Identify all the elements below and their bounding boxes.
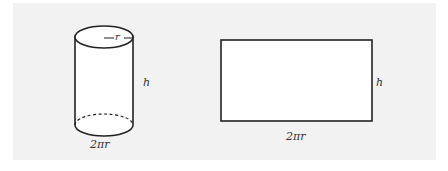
cylinder — [75, 26, 133, 136]
cylinder-body — [75, 37, 133, 136]
cylinder-radius-label: r — [115, 32, 120, 42]
cylinder-circumference-label: 2πr — [90, 139, 110, 150]
cylinder-top-ellipse — [75, 26, 133, 48]
cylinder-height-label: h — [143, 77, 150, 88]
unrolled-rectangle — [221, 40, 372, 121]
rectangle-height-label: h — [376, 77, 383, 88]
rectangle-width-label: 2πr — [286, 131, 306, 142]
